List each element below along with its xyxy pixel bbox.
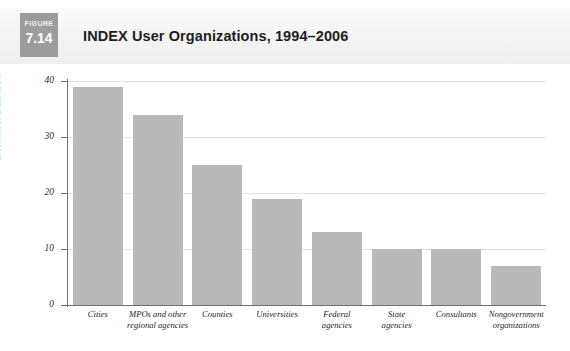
y-axis-tick-label: 20 [0,187,54,197]
bar-slot [427,81,487,305]
bar[interactable] [133,115,183,305]
y-axis-tick-label: 10 [0,243,54,253]
bar-slot [367,81,427,305]
y-axis-tick [61,81,67,82]
x-axis-category-label-line: Nongovernment [474,309,558,320]
bar[interactable] [192,165,242,305]
y-axis-tick-label: 0 [0,299,54,309]
figure-tag-word: FIGURE [20,19,58,28]
bar[interactable] [372,249,422,305]
y-axis-tick [61,305,67,306]
x-axis-category-label-line: regional agencies [116,320,200,331]
figure-tag-number: 7.14 [20,30,58,47]
x-axis-line [67,305,546,306]
bar-slot [247,81,307,305]
y-axis-label: Licensed INDEX users [0,73,2,160]
bar-slot [68,81,128,305]
y-axis-tick [61,137,67,138]
y-axis-tick-label: 40 [0,75,54,85]
bar[interactable] [252,199,302,305]
bar[interactable] [73,87,123,305]
bar-series [68,81,546,305]
bar-slot [128,81,188,305]
bar[interactable] [491,266,541,305]
bar-slot [486,81,546,305]
figure-header: FIGURE 7.14 INDEX User Organizations, 19… [0,8,570,64]
bar-slot [307,81,367,305]
y-axis-tick-label: 30 [0,131,54,141]
x-axis-category-label: Nongovernmentorganizations [474,309,558,331]
bar-slot [188,81,248,305]
y-axis-tick [61,193,67,194]
figure-title: INDEX User Organizations, 1994–2006 [83,8,348,64]
bar[interactable] [312,232,362,305]
x-axis-category-label-line: organizations [474,320,558,331]
bar-chart: 010203040 Licensed INDEX users CitiesMPO… [0,64,570,351]
bar[interactable] [431,249,481,305]
x-axis-category-label-line: agencies [355,320,439,331]
figure-number-badge: FIGURE 7.14 [20,13,58,57]
y-axis-tick [61,249,67,250]
